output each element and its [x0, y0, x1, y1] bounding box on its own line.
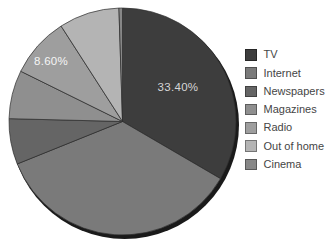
legend-item-cinema: Cinema	[245, 159, 325, 171]
slice-label-radio: 8.60%	[34, 55, 68, 67]
legend-swatch-icon	[245, 122, 257, 134]
legend-swatch-icon	[245, 86, 257, 98]
legend-item-radio: Radio	[245, 122, 325, 134]
legend-item-out-of-home: Out of home	[245, 140, 325, 152]
legend-swatch-icon	[245, 159, 257, 171]
legend-item-newspapers: Newspapers	[245, 86, 325, 98]
legend-label: Out of home	[264, 141, 325, 152]
legend-label: Newspapers	[264, 86, 325, 97]
legend-swatch-icon	[245, 67, 257, 79]
legend-label: Cinema	[264, 159, 302, 170]
legend-label: Internet	[264, 68, 301, 79]
legend-label: Magazines	[264, 104, 317, 115]
legend-item-internet: Internet	[245, 67, 325, 79]
legend-item-magazines: Magazines	[245, 104, 325, 116]
slice-label-tv: 33.40%	[158, 81, 199, 93]
legend-swatch-icon	[245, 140, 257, 152]
legend-item-tv: TV	[245, 49, 325, 61]
legend-swatch-icon	[245, 104, 257, 116]
legend-label: TV	[264, 49, 278, 60]
media-share-pie-chart: 33.40%8.60% TVInternetNewspapersMagazine…	[0, 0, 325, 248]
legend-swatch-icon	[245, 49, 257, 61]
legend: TVInternetNewspapersMagazinesRadioOut of…	[245, 49, 325, 170]
legend-label: Radio	[264, 122, 293, 133]
